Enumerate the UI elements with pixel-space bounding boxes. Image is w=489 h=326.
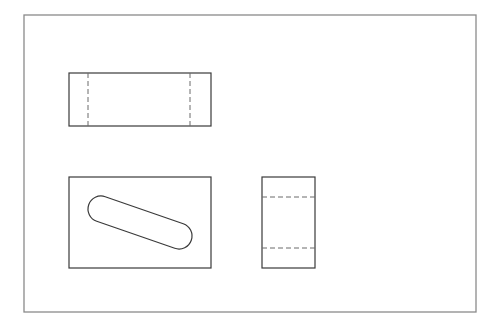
technical-drawing-canvas <box>0 0 489 326</box>
drawing-background <box>0 0 489 326</box>
